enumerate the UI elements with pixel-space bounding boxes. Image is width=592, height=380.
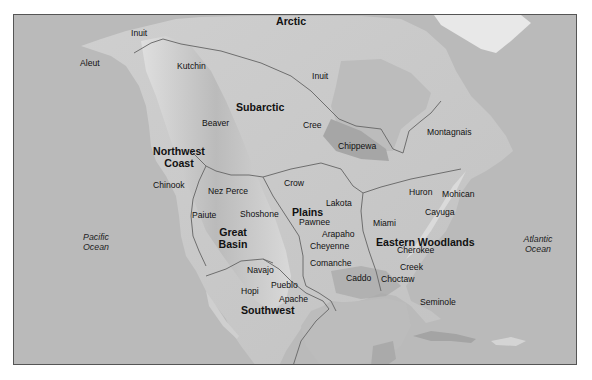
tribe-label-lakota: Lakota — [326, 198, 352, 208]
tribe-label-apache: Apache — [279, 294, 308, 304]
tribe-label-crow: Crow — [284, 178, 304, 188]
tribe-label-pueblo: Pueblo — [271, 280, 298, 290]
tribe-label-cayuga: Cayuga — [425, 207, 455, 217]
tribe-label-cheyenne: Cheyenne — [310, 241, 349, 251]
tribe-label-caddo: Caddo — [346, 273, 371, 283]
region-label-northwest-coast-line2: Coast — [144, 157, 214, 169]
tribe-label-cherokee: Cherokee — [397, 245, 434, 255]
tribe-label-montagnais: Montagnais — [427, 127, 471, 137]
tribe-label-seminole: Seminole — [420, 297, 456, 307]
region-label-subarctic: Subarctic — [236, 101, 284, 113]
tribe-label-pawnee: Pawnee — [299, 217, 330, 227]
ocean-label-atlantic: Atlantic Ocean — [516, 234, 560, 254]
ocean-label-atlantic-line2: Ocean — [516, 244, 560, 254]
ocean-label-pacific-line2: Ocean — [76, 242, 116, 252]
tribe-label-creek: Creek — [400, 262, 423, 272]
tribe-label-paiute: Paiute — [192, 210, 216, 220]
tribe-label-arapaho: Arapaho — [322, 229, 355, 239]
tribe-label-inuit-east: Inuit — [312, 71, 328, 81]
region-label-arctic: Arctic — [276, 15, 306, 27]
tribe-label-hopi: Hopi — [241, 286, 259, 296]
region-label-southwest: Southwest — [241, 304, 295, 316]
tribe-label-cree: Cree — [303, 120, 322, 130]
tribe-label-huron: Huron — [409, 187, 432, 197]
tribe-label-choctaw: Choctaw — [381, 274, 414, 284]
ocean-label-atlantic-line1: Atlantic — [516, 234, 560, 244]
ocean-label-pacific-line1: Pacific — [76, 232, 116, 242]
tribe-label-miami: Miami — [373, 218, 396, 228]
region-label-great-basin-line2: Basin — [215, 238, 251, 250]
tribe-label-mohican: Mohican — [442, 189, 474, 199]
tribe-label-comanche: Comanche — [310, 258, 352, 268]
region-label-northwest-coast-line1: Northwest — [144, 145, 214, 157]
tribe-label-kutchin: Kutchin — [177, 61, 206, 71]
culture-areas-map: Arctic Subarctic Northwest Coast Plains … — [13, 14, 577, 365]
region-label-northwest-coast: Northwest Coast — [144, 145, 214, 169]
region-label-great-basin: Great Basin — [215, 226, 251, 250]
region-label-great-basin-line1: Great — [215, 226, 251, 238]
tribe-label-inuit-west: Inuit — [131, 28, 147, 38]
tribe-label-aleut: Aleut — [80, 58, 100, 68]
ocean-label-pacific: Pacific Ocean — [76, 232, 116, 252]
tribe-label-chinook: Chinook — [153, 180, 185, 190]
tribe-label-chippewa: Chippewa — [338, 141, 376, 151]
tribe-label-shoshone: Shoshone — [240, 209, 279, 219]
tribe-label-nez-perce: Nez Perce — [208, 186, 248, 196]
tribe-label-beaver: Beaver — [202, 118, 229, 128]
tribe-label-navajo: Navajo — [247, 265, 274, 275]
